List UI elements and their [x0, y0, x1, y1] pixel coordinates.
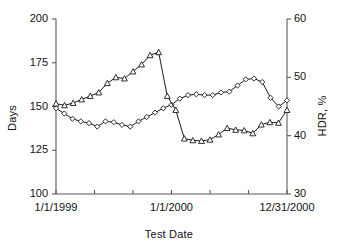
data-point-triangle: [224, 125, 230, 130]
data-point-triangle: [173, 107, 179, 112]
data-point-diamond: [111, 120, 116, 125]
data-point-diamond: [119, 122, 124, 127]
data-point-triangle: [53, 101, 59, 106]
data-point-diamond: [86, 121, 91, 126]
data-point-triangle: [284, 107, 290, 112]
data-point-diamond: [218, 90, 223, 95]
data-point-diamond: [210, 93, 215, 98]
data-point-diamond: [95, 124, 100, 129]
data-point-triangle: [70, 100, 76, 105]
data-point-diamond: [152, 110, 157, 115]
data-point-diamond: [62, 111, 67, 116]
plot-area: [0, 0, 338, 248]
data-point-diamond: [251, 76, 256, 81]
series-group: [53, 49, 290, 143]
data-point-diamond: [128, 124, 133, 129]
chart-figure: Days HDR, % Test Date 100125150175200 30…: [0, 0, 338, 248]
data-point-diamond: [260, 79, 265, 84]
data-point-triangle: [79, 97, 85, 102]
data-point-diamond: [185, 93, 190, 98]
data-point-diamond: [70, 116, 75, 121]
data-point-triangle: [156, 49, 162, 54]
data-point-diamond: [202, 93, 207, 98]
data-point-diamond: [144, 114, 149, 119]
data-point-diamond: [103, 119, 108, 124]
data-point-triangle: [181, 136, 187, 141]
data-point-diamond: [136, 119, 141, 124]
data-point-triangle: [87, 93, 93, 98]
data-point-triangle: [164, 93, 170, 98]
data-point-diamond: [194, 92, 199, 97]
data-point-diamond: [161, 106, 166, 111]
data-point-triangle: [104, 80, 110, 85]
data-point-diamond: [78, 119, 83, 124]
